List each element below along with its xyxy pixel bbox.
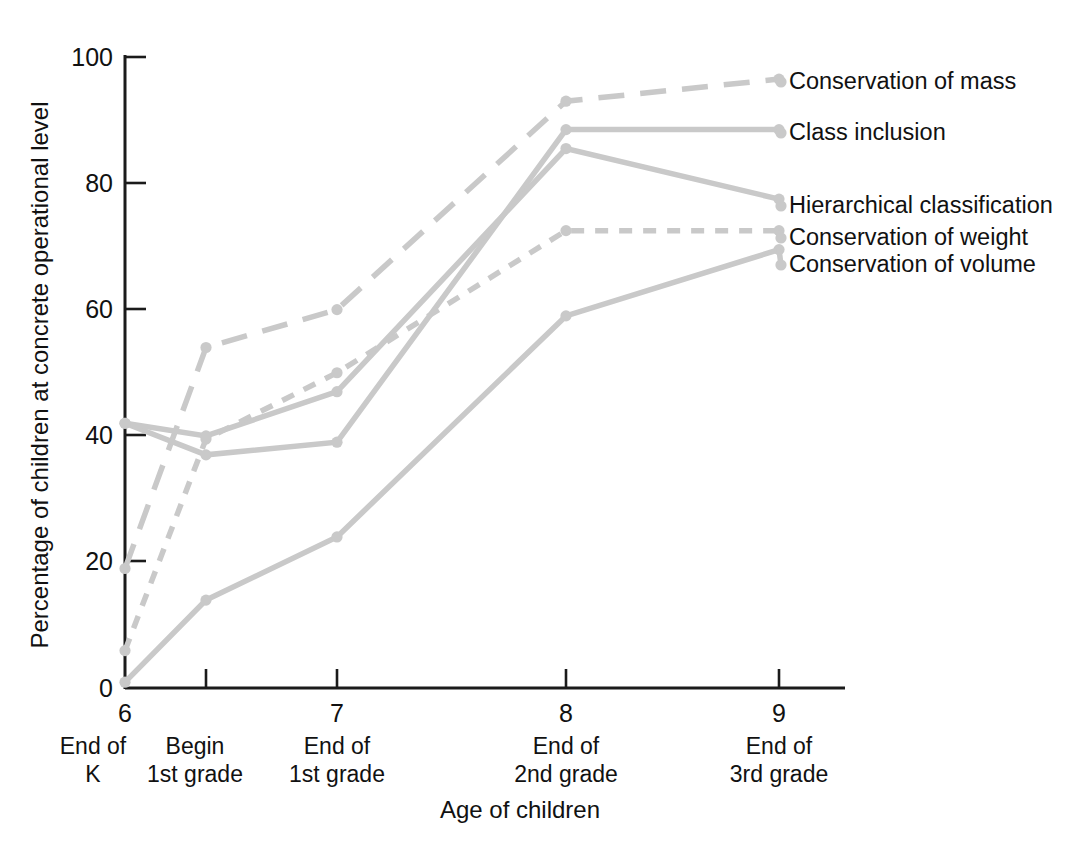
- series-layer: [119, 74, 784, 688]
- series-conservation-of-volume[interactable]: [119, 244, 784, 688]
- data-point[interactable]: [560, 143, 571, 154]
- x-category-line2: 2nd grade: [514, 761, 618, 787]
- data-point[interactable]: [200, 594, 211, 605]
- data-point[interactable]: [200, 342, 211, 353]
- x-category-line1: Begin: [166, 733, 225, 759]
- x-axis-tick-labels: 6 7 8 9: [118, 699, 786, 727]
- x-axis-ticks: [206, 669, 779, 688]
- data-point[interactable]: [560, 225, 571, 236]
- x-axis-category-labels: End of K Begin 1st grade End of 1st grad…: [60, 733, 828, 787]
- y-tick-label: 40: [85, 421, 113, 449]
- data-point[interactable]: [331, 304, 342, 315]
- y-axis-tick-labels: 100 80 60 40 20 0: [71, 43, 113, 702]
- data-point[interactable]: [200, 433, 211, 444]
- x-category-line1: End of: [60, 733, 127, 759]
- y-tick-label: 80: [85, 169, 113, 197]
- series-line: [125, 79, 779, 568]
- y-tick-label: 20: [85, 547, 113, 575]
- x-category-line2: 1st grade: [147, 761, 243, 787]
- legend-marker[interactable]: [775, 232, 786, 243]
- x-axis-title: Age of children: [440, 796, 600, 823]
- data-point[interactable]: [119, 677, 130, 688]
- y-tick-label: 0: [99, 674, 113, 702]
- y-tick-label: 100: [71, 43, 113, 71]
- x-tick-label: 7: [330, 699, 344, 727]
- x-tick-label: 9: [772, 699, 786, 727]
- chart-container: 100 80 60 40 20 0 6 7 8 9 End of K Begin…: [0, 0, 1080, 861]
- x-category-line1: End of: [304, 733, 371, 759]
- x-category-line1: End of: [746, 733, 813, 759]
- data-point[interactable]: [331, 437, 342, 448]
- x-category-line2: 3rd grade: [730, 761, 828, 787]
- series-line: [125, 231, 779, 651]
- x-category-line1: End of: [533, 733, 600, 759]
- series-line: [125, 149, 779, 436]
- y-axis-title: Percentage of children at concrete opera…: [26, 101, 53, 648]
- data-point[interactable]: [560, 96, 571, 107]
- data-point[interactable]: [560, 310, 571, 321]
- series-hierarchical-classification[interactable]: [119, 143, 784, 442]
- series-line: [125, 250, 779, 683]
- legend-marker[interactable]: [775, 259, 786, 270]
- legend-marker[interactable]: [775, 200, 786, 211]
- x-tick-label: 8: [559, 699, 573, 727]
- y-tick-label: 60: [85, 295, 113, 323]
- data-point[interactable]: [119, 563, 130, 574]
- y-axis-ticks: [125, 57, 146, 561]
- x-category-line2: 1st grade: [289, 761, 385, 787]
- legend-leader-layer: [775, 76, 786, 270]
- data-point[interactable]: [331, 367, 342, 378]
- data-point[interactable]: [119, 645, 130, 656]
- x-tick-label: 6: [118, 699, 132, 727]
- legend-marker[interactable]: [775, 127, 786, 138]
- x-category-line2: K: [85, 761, 101, 787]
- data-point[interactable]: [119, 418, 130, 429]
- data-point[interactable]: [200, 449, 211, 460]
- data-point[interactable]: [331, 386, 342, 397]
- legend-marker[interactable]: [775, 76, 786, 87]
- line-chart-svg: 100 80 60 40 20 0 6 7 8 9 End of K Begin…: [0, 0, 1080, 861]
- data-point[interactable]: [331, 531, 342, 542]
- data-point[interactable]: [560, 124, 571, 135]
- series-conservation-of-mass[interactable]: [119, 74, 784, 575]
